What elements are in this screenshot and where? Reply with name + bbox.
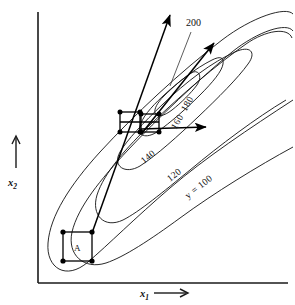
leader-line-200 (170, 32, 191, 86)
contour-label-200: 200 (186, 17, 201, 28)
contour-label-100: y = 100 (183, 173, 214, 201)
leader-line-group (170, 32, 191, 86)
contour-label-140: 140 (139, 148, 157, 166)
y-axis-label: x2 (7, 177, 17, 191)
simplex-mid-1-vertex (118, 110, 123, 115)
simplex-mid-2-vertex (157, 130, 162, 135)
simplex-a-vertex (60, 258, 65, 263)
simplex-mid-1-vertex (118, 130, 123, 135)
plot-canvas: A y = 100 120 140 160 180 (0, 0, 295, 305)
simplex-mid-2-vertex (157, 112, 162, 117)
contour-label-120: 120 (165, 166, 183, 183)
simplex-mid-2-vertex (139, 112, 144, 117)
simplex-group (60, 110, 161, 264)
contour-plot-figure: A y = 100 120 140 160 180 (0, 0, 295, 305)
simplex-mid-2-vertex (139, 130, 144, 135)
contour-120 (71, 28, 293, 265)
simplex-a-vertex (60, 229, 65, 234)
contour-label-180: 180 (179, 95, 195, 113)
simplex-a-label: A (74, 243, 81, 253)
arrow-long-ascent (92, 15, 170, 233)
simplex-a-vertex (89, 229, 94, 234)
simplex-a-vertex (89, 258, 94, 263)
x-axis-label: x1 (139, 288, 149, 302)
